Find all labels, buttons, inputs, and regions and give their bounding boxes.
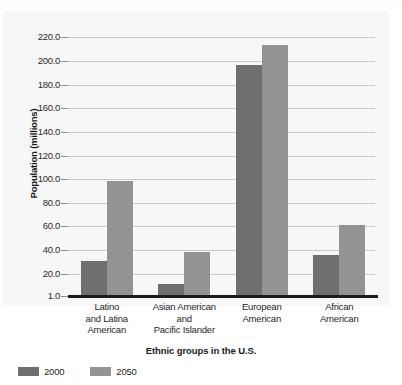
y-axis-tick-mark <box>61 274 68 275</box>
bar-2050-group-2 <box>184 252 210 296</box>
bar-2050-group-1 <box>107 181 133 296</box>
category-label-line: European <box>218 301 306 313</box>
gridline <box>68 156 375 157</box>
gridline <box>68 108 375 109</box>
y-axis-tick-label: 140.0 <box>8 126 60 137</box>
y-axis-tick-mark <box>61 108 68 109</box>
x-axis-category-label: AfricanAmerican <box>296 301 384 324</box>
y-axis-tick-mark <box>61 250 68 251</box>
bar-2000-group-4 <box>313 255 339 296</box>
y-axis-tick-mark <box>61 61 68 62</box>
category-label-line: American <box>218 313 306 325</box>
x-axis-category-label: Latinoand LatinaAmerican <box>63 301 151 336</box>
category-label-line: Asian American <box>141 301 229 313</box>
bar-2050-group-4 <box>339 225 365 296</box>
y-axis-tick-mark <box>61 226 68 227</box>
gridline <box>68 61 375 62</box>
y-axis-tick-label: 80.0 <box>8 197 60 208</box>
y-axis-tick-label: 180.0 <box>8 79 60 90</box>
y-axis-tick-label: 40.0 <box>8 244 60 255</box>
gridline <box>68 85 375 86</box>
bar-2000-group-3 <box>236 65 262 296</box>
y-axis-tick-label: 200.0 <box>8 55 60 66</box>
y-axis-tick-mark <box>61 132 68 133</box>
legend-item-2050[interactable]: 2050 <box>90 366 136 377</box>
y-axis-tick-label: 160.0 <box>8 102 60 113</box>
x-axis-category-labels: Latinoand LatinaAmericanAsian Americanan… <box>68 301 378 343</box>
category-label-line: American <box>296 313 384 325</box>
legend-swatch-icon <box>18 367 39 376</box>
gridline <box>68 179 375 180</box>
category-label-line: African <box>296 301 384 313</box>
x-axis-title: Ethnic groups in the U.S. <box>0 345 402 356</box>
y-axis-tick-label: 120.0 <box>8 150 60 161</box>
category-label-line: and Latina <box>63 313 151 325</box>
gridline <box>68 37 375 38</box>
category-label-line: Pacific Islander <box>141 324 229 336</box>
y-axis-tick-labels: 220.0200.0180.0160.0140.0120.0100.080.06… <box>8 28 60 296</box>
x-axis-category-label: EuropeanAmerican <box>218 301 306 324</box>
category-label-line: and <box>141 313 229 325</box>
gridline <box>68 132 375 133</box>
scan-artifact-strip <box>0 0 402 9</box>
x-axis-line <box>68 295 378 298</box>
legend-label: 2000 <box>44 366 64 377</box>
y-axis-tick-mark <box>61 179 68 180</box>
legend-swatch-icon <box>90 367 111 376</box>
y-axis-tick-mark <box>61 296 68 297</box>
y-axis-tick-mark <box>61 203 68 204</box>
legend-label: 2050 <box>116 366 136 377</box>
y-axis-tick-label: 220.0 <box>8 31 60 42</box>
y-axis-tick-label: 1.0 <box>8 290 60 301</box>
bar-2000-group-1 <box>81 261 107 296</box>
category-label-line: American <box>63 324 151 336</box>
bar-chart-figure: Population (millions) 220.0200.0180.0160… <box>0 0 402 385</box>
category-label-line: Latino <box>63 301 151 313</box>
x-axis-category-label: Asian AmericanandPacific Islander <box>141 301 229 336</box>
y-axis-tick-label: 20.0 <box>8 268 60 279</box>
plot-area <box>68 28 378 296</box>
chart-legend: 20002050 <box>18 366 137 377</box>
y-axis-tick-label: 100.0 <box>8 173 60 184</box>
y-axis-tick-label: 60.0 <box>8 220 60 231</box>
y-axis-tick-mark <box>61 156 68 157</box>
y-axis-tick-mark <box>61 37 68 38</box>
bar-2050-group-3 <box>262 45 288 296</box>
legend-item-2000[interactable]: 2000 <box>18 366 64 377</box>
y-axis-tick-mark <box>61 85 68 86</box>
